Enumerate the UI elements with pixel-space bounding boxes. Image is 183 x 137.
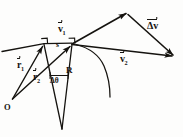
label-delta-theta: Δθ bbox=[50, 77, 59, 85]
label-position-r1: r1 bbox=[17, 60, 24, 72]
label-r2-text: r bbox=[33, 72, 37, 82]
label-origin: O bbox=[4, 103, 11, 112]
tangent-line-group bbox=[2, 43, 72, 51]
position-vectors-group bbox=[13, 47, 71, 100]
tangent-line-left bbox=[2, 43, 72, 51]
label-position-r2: r2 bbox=[33, 72, 40, 84]
label-velocity-v1: v1 bbox=[58, 24, 66, 36]
position-vector-r2 bbox=[13, 47, 71, 100]
label-v2-text: v bbox=[120, 54, 125, 64]
label-arc-length: s bbox=[56, 41, 59, 49]
label-r1-text: r bbox=[17, 60, 21, 70]
label-v1-text: v bbox=[58, 24, 63, 34]
label-velocity-v2: v2 bbox=[120, 54, 128, 66]
circular-arc-group bbox=[76, 45, 110, 98]
label-radius: R bbox=[66, 66, 73, 75]
label-delta-v-text: Δv bbox=[147, 21, 158, 31]
radius-line-2 bbox=[62, 45, 72, 130]
label-delta-v: Δv bbox=[147, 21, 158, 31]
velocity-vector-v1 bbox=[72, 14, 126, 45]
vector-diagram-figure: v1 v2 Δv r1 r2 R s Δθ O bbox=[0, 0, 183, 137]
circular-arc bbox=[76, 45, 110, 98]
